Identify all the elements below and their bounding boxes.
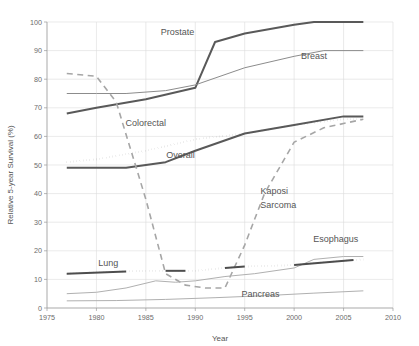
series-label-breast: Breast <box>301 51 328 61</box>
y-tick-label: 0 <box>38 304 42 313</box>
y-tick-label: 30 <box>34 218 42 227</box>
x-tick-label: 2000 <box>286 313 302 322</box>
series-annotations: ProstateBreastColorectalOverallKaposiSar… <box>98 27 358 299</box>
series-overall <box>67 116 364 167</box>
x-tick-label: 1995 <box>237 313 253 322</box>
series-label-colorectal: Colorectal <box>126 118 167 128</box>
y-tick-label: 40 <box>34 189 42 198</box>
series-lung-solid-segment <box>67 271 126 273</box>
x-tick-label: 2005 <box>336 313 352 322</box>
x-tick-label: 2010 <box>385 313 401 322</box>
series-label-kaposi: Kaposi <box>261 186 289 196</box>
series-prostate <box>67 22 364 114</box>
y-axis-ticks: 0102030405060708090100 <box>30 18 47 313</box>
series-label-lung: Lung <box>98 258 118 268</box>
y-tick-label: 60 <box>34 132 42 141</box>
series-colorectal <box>67 119 364 162</box>
y-tick-label: 50 <box>34 161 42 170</box>
series-lung-solid-segment <box>225 267 245 268</box>
series-lung-solid-segment <box>294 260 353 265</box>
series-label-overall: Overall <box>166 150 195 160</box>
y-axis-title: Relative 5-year Survival (%) <box>6 125 15 224</box>
x-tick-label: 1990 <box>187 313 203 322</box>
y-tick-label: 10 <box>34 275 42 284</box>
x-axis-ticks: 19751980198519901995200020052010 <box>39 308 401 322</box>
y-tick-label: 70 <box>34 103 42 112</box>
series-label-pancreas: Pancreas <box>242 289 281 299</box>
x-tick-label: 1975 <box>39 313 55 322</box>
y-tick-label: 20 <box>34 246 42 255</box>
y-tick-label: 80 <box>34 75 42 84</box>
series-pancreas <box>67 291 364 301</box>
x-tick-label: 1985 <box>138 313 154 322</box>
x-axis-title: Year <box>212 334 229 343</box>
y-tick-label: 90 <box>34 46 42 55</box>
series-label-esophagus: Esophagus <box>313 234 359 244</box>
x-tick-label: 1980 <box>88 313 104 322</box>
y-tick-label: 100 <box>30 18 42 27</box>
series-label-prostate: Prostate <box>161 27 195 37</box>
chart-container: 0102030405060708090100 19751980198519901… <box>0 0 419 346</box>
series-label-sarcoma: Sarcoma <box>260 200 296 210</box>
survival-trend-line-chart: 0102030405060708090100 19751980198519901… <box>0 0 419 346</box>
